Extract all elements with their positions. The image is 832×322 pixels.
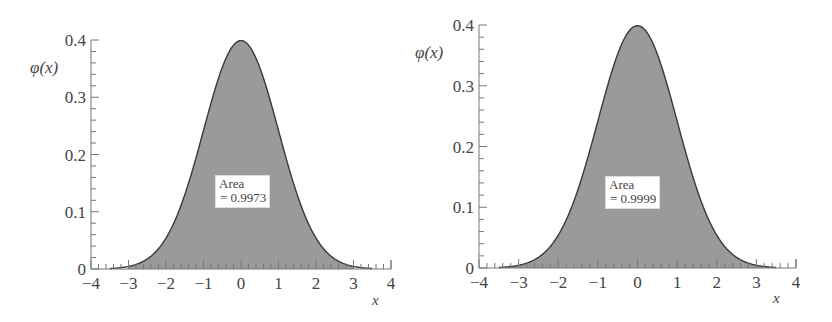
x-axis-label: x [772,290,780,306]
x-tick-label: 4 [792,273,801,292]
area-annotation-right: Area = 0.9999 [605,176,660,209]
x-tick-label: 1 [673,273,682,292]
shaded-area [499,26,776,268]
y-axis-label: φ(x) [415,43,444,62]
area-value: = 0.9999 [609,192,656,206]
chart-right: 00.10.20.30.4−4−3−2−101234φ(x)x Area = 0… [0,0,832,322]
y-tick-label: 0.4 [453,16,475,35]
y-tick-label: 0.2 [453,138,474,157]
y-tick-label: 0.3 [453,77,474,96]
x-tick-label: −2 [549,273,567,292]
y-tick-label: 0.1 [453,198,474,217]
x-tick-label: −3 [510,273,528,292]
area-label: Area [609,178,656,192]
x-tick-label: 0 [633,273,642,292]
x-tick-label: 2 [713,273,722,292]
x-tick-label: 3 [752,273,761,292]
chart-right-svg: 00.10.20.30.4−4−3−2−101234φ(x)x [0,0,832,322]
x-tick-label: −4 [470,273,489,292]
x-tick-label: −1 [589,273,607,292]
